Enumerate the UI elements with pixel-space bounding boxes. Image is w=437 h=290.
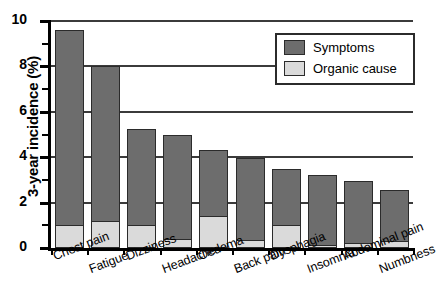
y-tick-minor — [42, 43, 51, 45]
y-tick-minor — [42, 179, 51, 181]
y-tick-minor — [42, 134, 51, 136]
gridline — [51, 20, 413, 22]
y-tick-label: 4 — [19, 148, 27, 164]
y-tick: 8 — [40, 65, 51, 68]
legend-item-symptoms[interactable]: Symptoms — [284, 40, 374, 55]
y-tick: 10 — [40, 20, 51, 23]
y-tick-minor — [42, 88, 51, 90]
y-tick: 2 — [40, 202, 51, 205]
bar[interactable] — [163, 135, 192, 249]
bar-segment-symptoms[interactable] — [163, 135, 192, 249]
y-tick: 4 — [40, 156, 51, 159]
bar[interactable] — [127, 129, 156, 248]
y-tick-minor — [42, 224, 51, 226]
y-tick-label: 8 — [19, 57, 27, 73]
y-tick-label: 10 — [11, 11, 27, 27]
bar[interactable] — [272, 169, 301, 248]
legend-item-organic-cause[interactable]: Organic cause — [284, 61, 397, 76]
bar[interactable] — [199, 150, 228, 248]
legend-label-symptoms: Symptoms — [313, 40, 374, 55]
legend-swatch-symptoms — [284, 40, 305, 55]
bar-segment-symptoms[interactable] — [55, 30, 84, 248]
legend[interactable]: Symptoms Organic cause — [275, 33, 415, 85]
y-tick-label: 6 — [19, 102, 27, 118]
legend-label-organic-cause: Organic cause — [313, 61, 397, 76]
y-tick-label: 2 — [19, 193, 27, 209]
bar[interactable] — [91, 66, 120, 248]
legend-swatch-organic-cause — [284, 61, 305, 76]
y-tick: 6 — [40, 111, 51, 114]
bar[interactable] — [55, 30, 84, 248]
x-axis-labels: Chest painFatigueDizzinessHeadacheOedema… — [0, 248, 427, 290]
